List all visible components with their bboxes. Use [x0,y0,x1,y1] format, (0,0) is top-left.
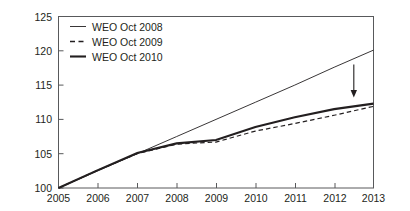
x-axis-ticks [59,183,374,188]
y-axis-labels: 125 120 115 110 105 100 [34,11,52,195]
line-chart: 125 120 115 110 105 100 2005 2006 2007 2… [0,0,410,211]
x-tick-label-2013: 2013 [362,192,386,204]
x-tick-label-2011: 2011 [284,192,307,204]
y-tick-label-125: 125 [34,11,52,23]
series-line-weo-oct-2010 [59,104,374,188]
annotation-arrow-down [351,65,357,98]
y-tick-label-110: 110 [35,113,52,125]
y-tick-label-115: 115 [35,79,52,91]
legend-label-weo-oct-2008: WEO Oct 2008 [92,21,163,33]
x-tick-label-2006: 2006 [86,192,110,204]
x-tick-label-2008: 2008 [165,192,189,204]
x-axis-labels: 2005 2006 2007 2008 2009 2010 2011 2012 … [47,192,386,204]
series-line-weo-oct-2009 [59,106,374,188]
y-tick-label-120: 120 [34,45,52,57]
legend: WEO Oct 2008 WEO Oct 2009 WEO Oct 2010 [70,21,163,63]
series-group [59,50,374,188]
x-tick-label-2010: 2010 [244,192,268,204]
y-tick-label-105: 105 [34,148,52,160]
chart-canvas: 125 120 115 110 105 100 2005 2006 2007 2… [0,0,410,211]
x-tick-label-2007: 2007 [126,192,150,204]
y-axis-ticks [59,17,64,189]
x-tick-label-2012: 2012 [323,192,347,204]
legend-label-weo-oct-2009: WEO Oct 2009 [92,36,163,48]
x-tick-label-2009: 2009 [205,192,229,204]
x-tick-label-2005: 2005 [47,192,71,204]
legend-label-weo-oct-2010: WEO Oct 2010 [92,51,163,63]
